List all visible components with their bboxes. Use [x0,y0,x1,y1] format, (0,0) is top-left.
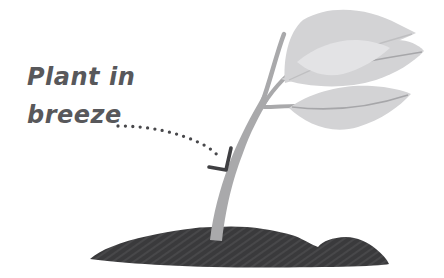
soil-mound [90,226,389,267]
illustration-canvas: Plant in breeze [0,0,444,278]
plant-in-breeze-figure [0,0,444,278]
arrowhead-icon [209,148,231,170]
annotation-label: Plant in breeze [27,58,135,134]
annotation-label-line2: breeze [27,96,135,134]
annotation-label-line1: Plant in [27,58,135,96]
